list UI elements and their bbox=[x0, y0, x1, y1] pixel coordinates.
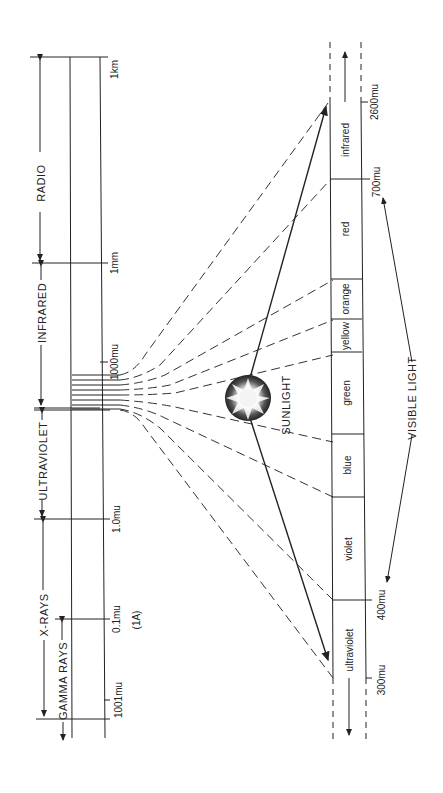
tick-label-1000mu: 1000mu bbox=[109, 344, 120, 380]
tick-label-700mu: 700mu bbox=[371, 167, 382, 198]
sun-icon bbox=[225, 375, 271, 421]
visible-light-arrow-bottom bbox=[387, 435, 412, 582]
scale-rail-right bbox=[100, 57, 105, 738]
visible-rail-left bbox=[330, 102, 333, 678]
band-label-ultraviolet: ULTRAVIOLET bbox=[37, 421, 49, 500]
tick-label-1.0mu: 1.0mu bbox=[111, 505, 122, 533]
spectrum-scale: RADIO INFRARED ULTRAVIOLET X-RAYS GAMMA … bbox=[30, 57, 142, 740]
segment-infrared: infrared bbox=[340, 123, 351, 157]
tick-label-1km: 1km bbox=[109, 60, 120, 79]
visible-light-label: VISIBLE LIGHT bbox=[406, 356, 418, 440]
band-label-xrays: X-RAYS bbox=[38, 593, 50, 636]
segment-ultraviolet: ultraviolet bbox=[344, 628, 355, 671]
segment-red: red bbox=[340, 222, 351, 236]
tick-label-1001mu: 1001mu bbox=[113, 682, 124, 718]
spectrum-diagram: RADIO INFRARED ULTRAVIOLET X-RAYS GAMMA … bbox=[0, 0, 443, 793]
band-label-gamma-rays: GAMMA RAYS bbox=[57, 642, 69, 720]
tick-label-400mu: 400mu bbox=[376, 590, 387, 621]
visible-rail-right bbox=[361, 102, 366, 678]
scale-rail-left bbox=[70, 57, 72, 738]
tick-label-1mm: 1mm bbox=[109, 252, 120, 274]
segment-green: green bbox=[341, 380, 352, 406]
tick-label-1A: (1A) bbox=[131, 611, 142, 630]
sunlight-label: SUNLIGHT bbox=[280, 375, 292, 435]
segment-violet: violet bbox=[343, 537, 354, 561]
segment-blue: blue bbox=[342, 455, 353, 474]
segment-orange: orange bbox=[340, 283, 351, 315]
band-label-infrared: INFRARED bbox=[36, 283, 48, 343]
tick-label-300mu: 300mu bbox=[376, 665, 387, 696]
sun-ray-upper bbox=[250, 107, 326, 378]
visible-scale: infrared red orange yellow green blue vi… bbox=[330, 42, 418, 740]
visible-light-arrow-top bbox=[383, 198, 412, 362]
sun-ray-lower bbox=[250, 418, 328, 660]
segment-yellow: yellow bbox=[340, 321, 351, 350]
tick-label-2600mu: 2600mu bbox=[369, 84, 380, 120]
tick-label-0.1mu: 0.1mu bbox=[111, 605, 122, 633]
band-label-radio: RADIO bbox=[35, 164, 47, 201]
